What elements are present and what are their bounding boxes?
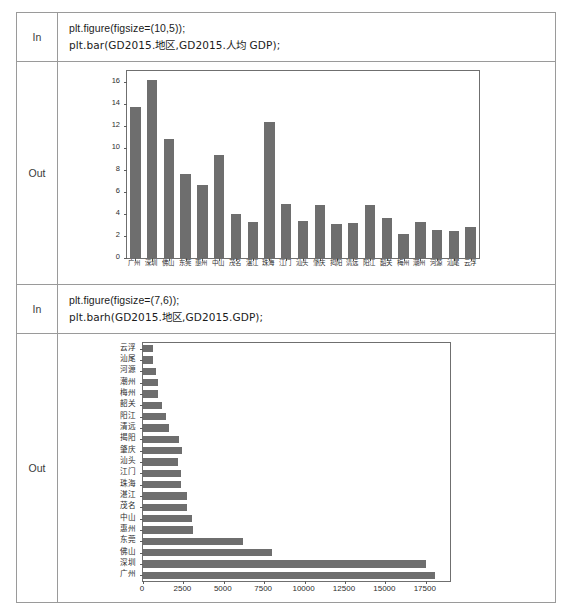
chart2-y-tick-label: 梅州 xyxy=(102,388,136,397)
code-line-2-2: plt.barh(GD2015.地区,GD2015.GDP); xyxy=(69,309,555,326)
chart1-y-tick xyxy=(124,170,127,171)
chart2-x-tick-label: 5000 xyxy=(203,584,243,593)
chart1-y-tick xyxy=(124,82,127,83)
chart1-y-tick xyxy=(124,104,127,105)
chart1-bar xyxy=(214,155,224,258)
chart2-bar xyxy=(143,413,166,420)
cell-label-out-2: Out xyxy=(17,334,58,603)
chart1-y-tick xyxy=(124,258,127,259)
cell-label-out-1: Out xyxy=(17,62,58,285)
chart2-bar xyxy=(143,492,187,499)
chart1-bar xyxy=(315,205,325,258)
chart2-y-tick-label: 惠州 xyxy=(102,524,136,533)
chart2-x-tick-label: 12500 xyxy=(324,584,364,593)
code-line-1-1: plt.figure(figsize=(10,5)); xyxy=(69,20,555,37)
chart2-bar xyxy=(143,481,181,488)
code-line-2-1: plt.figure(figsize=(7,6)); xyxy=(69,292,555,309)
chart2-bar xyxy=(143,538,243,545)
chart1-x-tick-label: 云浮 xyxy=(460,260,480,267)
chart2-y-tick-label: 东莞 xyxy=(102,535,136,544)
chart1-y-tick-label: 2 xyxy=(104,231,120,239)
chart1-bar xyxy=(415,222,425,258)
chart2-x-tick-label: 15000 xyxy=(364,584,404,593)
chart2-bar xyxy=(143,424,169,431)
chart2-plot-frame xyxy=(142,342,451,582)
chart2-y-tick-label: 韶关 xyxy=(102,399,136,408)
chart2-y-tick-label: 佛山 xyxy=(102,547,136,556)
chart2-y-tick xyxy=(140,383,143,384)
chart2-bar xyxy=(143,458,178,465)
chart1-y-tick-label: 12 xyxy=(104,121,120,129)
chart2-bar xyxy=(143,549,272,556)
code-block-2[interactable]: plt.figure(figsize=(7,6)); plt.barh(GD20… xyxy=(58,285,555,333)
chart1-y-tick xyxy=(124,236,127,237)
chart1-bar xyxy=(164,139,174,258)
chart1-bar xyxy=(264,122,274,258)
chart2-bar xyxy=(143,356,153,363)
cell-label-in-2: In xyxy=(17,285,58,334)
chart1-bar xyxy=(298,221,308,258)
notebook-row-out-2: Out 025005000750010000125001500017500广州深… xyxy=(17,334,556,603)
notebook-page: In plt.figure(figsize=(10,5)); plt.bar(G… xyxy=(0,0,570,615)
chart2-x-tick-label: 7500 xyxy=(243,584,283,593)
chart2-x-tick-label: 0 xyxy=(122,584,162,593)
chart1-bar xyxy=(281,204,291,258)
chart2-y-tick xyxy=(140,496,143,497)
chart1-bar xyxy=(231,214,241,258)
cell-body-in-1[interactable]: plt.figure(figsize=(10,5)); plt.bar(GD20… xyxy=(58,13,556,62)
chart2-y-tick-label: 汕尾 xyxy=(102,354,136,363)
cell-body-out-2: 025005000750010000125001500017500广州深圳佛山东… xyxy=(58,334,556,603)
chart2-y-tick-label: 阳江 xyxy=(102,411,136,420)
chart2-y-tick xyxy=(140,519,143,520)
chart2-y-tick-label: 广州 xyxy=(102,569,136,578)
chart1-bar xyxy=(449,231,459,258)
chart2-y-tick-label: 汕头 xyxy=(102,456,136,465)
chart2-y-tick xyxy=(140,541,143,542)
chart2-y-tick-label: 中山 xyxy=(102,513,136,522)
chart2-y-tick-label: 揭阳 xyxy=(102,433,136,442)
chart1-y-tick xyxy=(124,148,127,149)
code-block-1[interactable]: plt.figure(figsize=(10,5)); plt.bar(GD20… xyxy=(58,13,555,61)
chart1-y-tick xyxy=(124,126,127,127)
chart1-y-tick-label: 0 xyxy=(104,253,120,261)
cell-body-in-2[interactable]: plt.figure(figsize=(7,6)); plt.barh(GD20… xyxy=(58,285,556,334)
chart1-y-tick-label: 10 xyxy=(104,143,120,151)
chart2-bar xyxy=(143,470,181,477)
code-line-1-2: plt.bar(GD2015.地区,GD2015.人均 GDP); xyxy=(69,37,555,54)
notebook-table: In plt.figure(figsize=(10,5)); plt.bar(G… xyxy=(16,12,556,603)
chart1-bar xyxy=(147,80,157,258)
chart1-bar xyxy=(180,174,190,258)
notebook-row-out-1: Out 0246810121416广州深圳佛山东莞惠州中山茂名湛江珠海江门汕头肇… xyxy=(17,62,556,285)
output-area-1: 0246810121416广州深圳佛山东莞惠州中山茂名湛江珠海江门汕头肇庆揭阳清… xyxy=(58,62,555,284)
chart2-y-tick-label: 肇庆 xyxy=(102,445,136,454)
chart2-y-tick xyxy=(140,575,143,576)
chart2-y-tick xyxy=(140,507,143,508)
chart2-y-tick xyxy=(140,473,143,474)
chart1-bar xyxy=(331,224,341,258)
chart2-bar xyxy=(143,436,179,443)
chart2-y-tick xyxy=(140,530,143,531)
chart2-y-tick-label: 湛江 xyxy=(102,490,136,499)
chart1-y-tick xyxy=(124,214,127,215)
chart2-y-tick xyxy=(140,371,143,372)
chart1-y-tick-label: 6 xyxy=(104,187,120,195)
cell-label-in-1: In xyxy=(17,13,58,62)
chart2-y-tick-label: 深圳 xyxy=(102,558,136,567)
chart2-y-tick xyxy=(140,553,143,554)
chart1-bar xyxy=(382,218,392,258)
chart2-y-tick xyxy=(140,405,143,406)
chart2-bar xyxy=(143,402,162,409)
chart2-y-tick xyxy=(140,428,143,429)
chart2-y-tick-label: 珠海 xyxy=(102,479,136,488)
chart1-bar xyxy=(348,223,358,258)
chart2-y-tick xyxy=(140,394,143,395)
chart2-bar xyxy=(143,515,192,522)
chart2-bar xyxy=(143,379,158,386)
notebook-row-in-2: In plt.figure(figsize=(7,6)); plt.barh(G… xyxy=(17,285,556,334)
chart1-plot-frame xyxy=(126,70,480,259)
chart1-bar xyxy=(197,185,207,258)
chart2-y-tick-label: 江门 xyxy=(102,467,136,476)
bar-chart-vertical: 0246810121416广州深圳佛山东莞惠州中山茂名湛江珠海江门汕头肇庆揭阳清… xyxy=(82,68,502,280)
chart2-y-tick xyxy=(140,417,143,418)
chart2-bar xyxy=(143,526,193,533)
